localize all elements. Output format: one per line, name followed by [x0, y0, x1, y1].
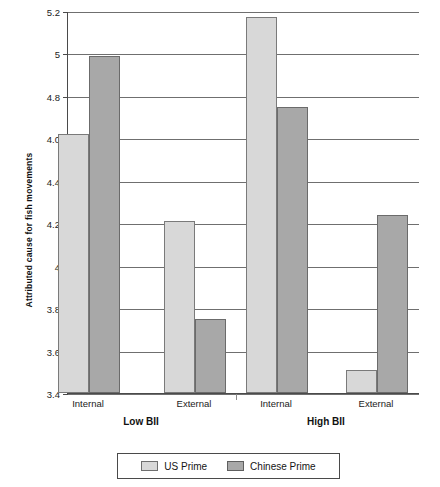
- x-axis-category-label: External: [177, 398, 212, 409]
- y-axis-tick: [63, 394, 68, 395]
- y-axis-tick-label: 4.8: [47, 91, 60, 102]
- legend-item: Chinese Prime: [227, 461, 316, 472]
- bar-chinese-prime: [377, 215, 408, 393]
- bar-chinese-prime: [89, 56, 120, 393]
- bar-us-prime: [246, 17, 277, 393]
- y-axis-tick-label: 5: [55, 49, 60, 60]
- x-axis-group-separator-tick: [236, 394, 237, 400]
- plot-area: 5.254.84.04.44.243.83.63.4: [67, 12, 419, 394]
- y-axis-tick-label: 5.2: [47, 7, 60, 18]
- x-axis-category-label: External: [359, 398, 394, 409]
- legend-label: US Prime: [164, 461, 207, 472]
- gridline: [68, 394, 419, 395]
- y-axis-title: Attributed cause for fish movements: [24, 105, 34, 355]
- bar-chinese-prime: [195, 319, 226, 393]
- chart-legend: US PrimeChinese Prime: [117, 453, 340, 479]
- bar-chinese-prime: [277, 107, 308, 394]
- bar-us-prime: [58, 134, 89, 393]
- bar-chart-figure: Attributed cause for fish movements 5.25…: [0, 0, 440, 487]
- bar-us-prime: [164, 221, 195, 393]
- legend-swatch-chinese-prime: [227, 461, 244, 471]
- legend-label: Chinese Prime: [250, 461, 316, 472]
- legend-swatch-us-prime: [141, 461, 158, 471]
- x-axis-group-label: High BII: [307, 416, 345, 427]
- x-axis-category-label: Internal: [260, 398, 292, 409]
- bar-us-prime: [346, 370, 377, 393]
- bar-series-container: [68, 12, 419, 393]
- x-axis-category-label: Internal: [72, 398, 104, 409]
- legend-item: US Prime: [141, 461, 207, 472]
- x-axis-group-label: Low BII: [123, 416, 159, 427]
